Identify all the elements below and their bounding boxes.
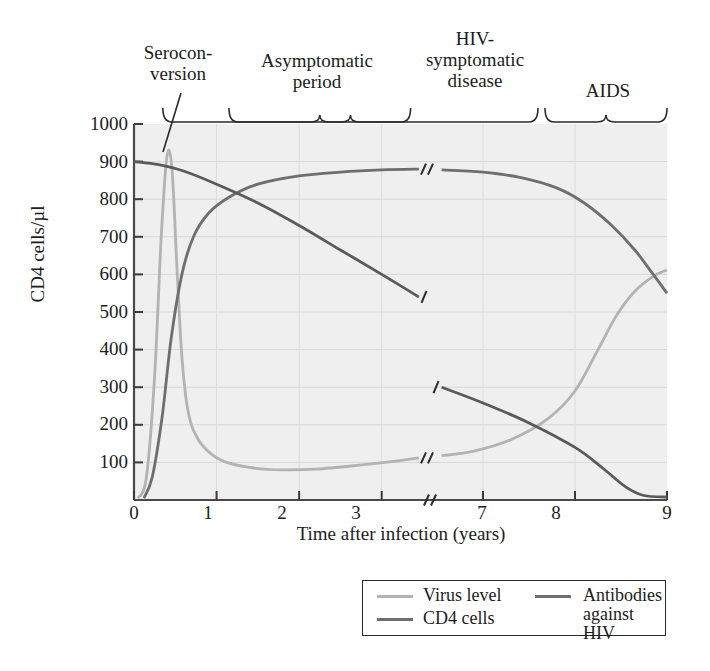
hiv-progression-chart: Serocon-version Asymptomaticperiod HIV-s…: [0, 0, 710, 671]
plot-area: [0, 0, 710, 671]
legend-label-cd4-cells: CD4 cells: [423, 609, 495, 628]
brace-hiv-symptomatic-disease: [163, 108, 538, 122]
legend: Virus level CD4 cells Antibodiesagainst …: [362, 580, 666, 636]
legend-swatch-cd4-cells: [377, 618, 413, 621]
legend-label-antibodies: Antibodiesagainst HIV: [583, 586, 669, 643]
brace-asymptomatic-period: [229, 108, 411, 122]
legend-swatch-virus-level: [377, 595, 413, 598]
brace-aids: [545, 108, 667, 122]
legend-label-virus-level: Virus level: [423, 586, 501, 605]
legend-swatch-antibodies: [535, 595, 571, 598]
legend-label-antibodies-line2: against HIV: [583, 604, 634, 643]
legend-label-antibodies-line1: Antibodies: [583, 585, 662, 605]
